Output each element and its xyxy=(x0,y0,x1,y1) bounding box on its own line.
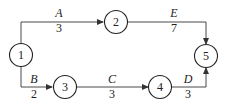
node-5-label: 5 xyxy=(203,49,209,63)
node-3: 3 xyxy=(54,76,77,99)
duration-label-C: 3 xyxy=(109,87,115,101)
node-1: 1 xyxy=(10,44,33,67)
node-2-label: 2 xyxy=(113,15,119,29)
node-3-label: 3 xyxy=(62,80,68,94)
node-5: 5 xyxy=(195,45,218,68)
duration-label-A: 3 xyxy=(56,21,62,35)
activity-label-B: B xyxy=(30,72,38,86)
duration-label-E: 7 xyxy=(171,21,177,35)
node-2: 2 xyxy=(105,11,128,34)
activity-label-E: E xyxy=(169,6,178,20)
network-diagram: A 3 B 2 C 3 D 3 E 7 1 2 3 4 5 xyxy=(0,0,228,111)
node-4-label: 4 xyxy=(157,80,163,94)
node-1-label: 1 xyxy=(18,48,24,62)
activity-label-D: D xyxy=(183,72,193,86)
duration-label-D: 3 xyxy=(185,87,191,101)
edge-E xyxy=(127,22,206,44)
duration-label-B: 2 xyxy=(31,87,37,101)
edge-A xyxy=(21,22,103,43)
node-4: 4 xyxy=(149,76,172,99)
activity-label-C: C xyxy=(108,72,117,86)
activity-label-A: A xyxy=(54,6,63,20)
